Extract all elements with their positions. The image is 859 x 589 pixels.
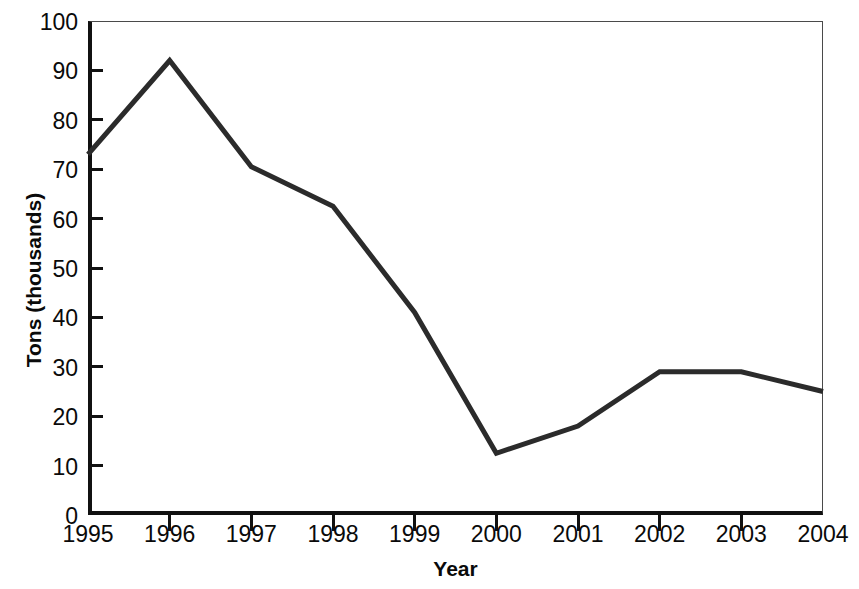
x-tick-label-text: 1999 [389, 521, 440, 548]
y-tick-mark [88, 168, 103, 171]
y-tick-mark [88, 415, 103, 418]
y-tick-label-text: 70 [52, 157, 78, 184]
y-tick-mark [88, 365, 103, 368]
y-tick-mark [88, 118, 103, 121]
y-axis-title: Tons (thousands) [22, 150, 46, 410]
y-tick-mark [88, 316, 103, 319]
series-line-tons [88, 61, 823, 454]
x-tick-label-text: 1998 [307, 521, 358, 548]
y-tick-mark [88, 267, 103, 270]
y-tick-label-text: 100 [40, 9, 78, 36]
line-chart-figure: 0102030405060708090100 19951996199719981… [0, 0, 859, 589]
y-tick-mark [88, 217, 103, 220]
data-line-svg [88, 21, 823, 515]
x-tick-label-text: 2001 [552, 521, 603, 548]
x-tick-label-text: 1995 [62, 521, 113, 548]
y-tick-label-text: 80 [52, 108, 78, 135]
x-tick-label-text: 2003 [716, 521, 767, 548]
y-tick-label-text: 90 [52, 58, 78, 85]
x-axis-title: Year [88, 557, 823, 581]
y-tick-mark [88, 69, 103, 72]
y-tick-label-text: 60 [52, 207, 78, 234]
y-tick-label-text: 10 [52, 454, 78, 481]
y-tick-label-text: 50 [52, 256, 78, 283]
x-tick-label-text: 2002 [634, 521, 685, 548]
y-tick-label-text: 20 [52, 404, 78, 431]
x-tick-label-text: 1997 [226, 521, 277, 548]
y-tick-label-text: 40 [52, 305, 78, 332]
x-tick-label-text: 2000 [471, 521, 522, 548]
x-tick-label-text: 1996 [144, 521, 195, 548]
y-tick-mark [88, 464, 103, 467]
x-tick-label-text: 2004 [797, 521, 848, 548]
y-tick-label-text: 30 [52, 355, 78, 382]
